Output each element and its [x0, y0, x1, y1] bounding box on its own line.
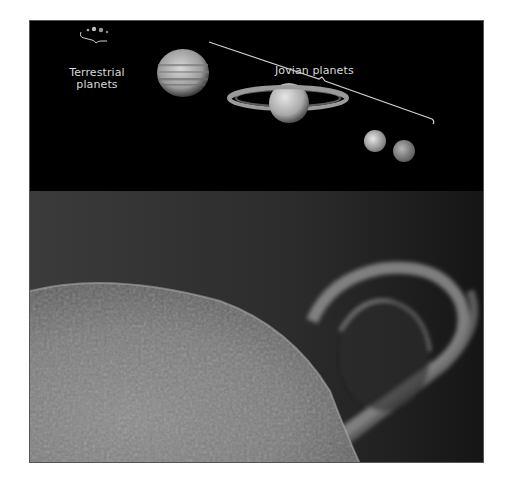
terrestrial-label-line2: planets: [62, 79, 132, 91]
neptune: [393, 140, 415, 162]
figure: Terrestrial planets Jovian planets: [29, 20, 484, 463]
planets-panel: Terrestrial planets Jovian planets: [30, 21, 484, 191]
sun-prominence-panel: [30, 191, 484, 463]
terrestrial-bracket: [80, 32, 107, 43]
planets-illustration: [30, 21, 484, 191]
jovian-label: Jovian planets: [275, 65, 385, 77]
saturn: [229, 83, 347, 123]
terrestrial-planets: [80, 27, 108, 43]
jovian-bracket: [209, 42, 434, 124]
terrestrial-label: Terrestrial planets: [62, 67, 132, 91]
sun-illustration: [30, 191, 484, 463]
jupiter: [157, 49, 209, 97]
uranus: [364, 130, 386, 152]
